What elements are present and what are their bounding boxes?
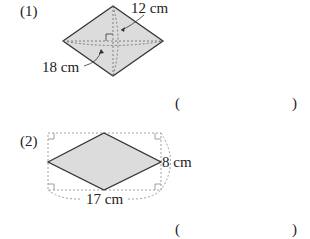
answer-1-open-paren: (: [175, 96, 180, 111]
answer-1-blank[interactable]: [185, 96, 295, 112]
label-17cm: 17 cm: [86, 192, 123, 207]
figures: [0, 0, 310, 239]
answer-2-blank[interactable]: [185, 222, 295, 238]
problem-2-number: (2): [20, 134, 38, 149]
label-8cm: 8 cm: [162, 155, 192, 170]
answer-2-close-paren: ): [292, 222, 297, 237]
answer-2-open-paren: (: [175, 222, 180, 237]
label-18cm: 18 cm: [42, 60, 79, 75]
answer-1-close-paren: ): [292, 96, 297, 111]
figure-2-rhombus: [48, 133, 171, 199]
label-12cm: 12 cm: [131, 1, 168, 16]
